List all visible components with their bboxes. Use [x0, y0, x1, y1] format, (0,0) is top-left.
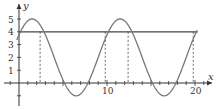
x-axis-label: x [208, 71, 214, 82]
y-tick-label: 3 [8, 40, 14, 50]
dashed-guides [40, 32, 193, 83]
y-tick-label: 2 [8, 53, 14, 63]
x-tick-label: 10 [102, 86, 114, 96]
x-tick-label: 20 [190, 86, 202, 96]
y-tick-label: 4 [8, 27, 14, 37]
y-tick-label: 1 [8, 66, 14, 76]
sinusoid-chart: 123451020 x y [0, 0, 218, 109]
y-axis-arrow-icon [17, 4, 22, 9]
y-axis-label: y [22, 0, 29, 11]
tick-labels: 123451020 [8, 15, 202, 97]
y-tick-label: 5 [8, 15, 14, 25]
